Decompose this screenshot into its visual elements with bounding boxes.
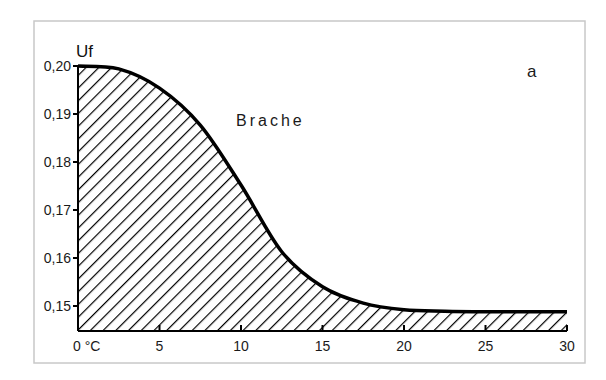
y-tick-label: 0,20 (44, 58, 71, 74)
x-tick-label: 30 (559, 338, 575, 354)
y-tick-label: 0,17 (44, 202, 71, 218)
panel-label: a (527, 62, 537, 81)
y-tick-label: 0,18 (44, 154, 71, 170)
x-tick-label: 5 (156, 338, 164, 354)
series-annotation: Brache (236, 112, 305, 129)
y-tick-label: 0,15 (44, 298, 71, 314)
x-tick-label: 20 (396, 338, 412, 354)
y-tick-label: 0,16 (44, 250, 71, 266)
x-tick-label: 10 (233, 338, 249, 354)
x-tick-label: 25 (478, 338, 494, 354)
y-tick-label: 0,19 (44, 106, 71, 122)
chart: 0,150,160,170,180,190,200 °C51015202530 … (0, 0, 606, 380)
x-tick-label: 15 (315, 338, 331, 354)
y-axis-title: Uf (76, 42, 93, 61)
x-tick-label: 0 °C (73, 338, 100, 354)
